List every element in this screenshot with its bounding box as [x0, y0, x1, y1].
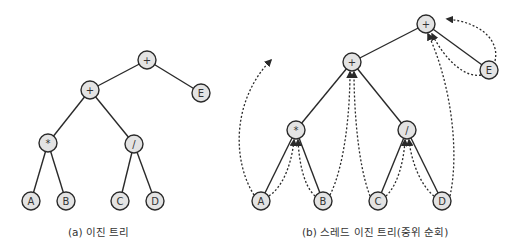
svg-text:B: B: [63, 196, 70, 207]
svg-text:C: C: [375, 196, 382, 207]
thread-link-E-to-root: [432, 34, 481, 75]
svg-text:D: D: [151, 196, 159, 207]
tree-node-A: A: [22, 192, 40, 210]
thread-link-B-to-mul: [298, 140, 315, 196]
tree-node-A: A: [252, 192, 270, 210]
thread-link-A-to-mul: [269, 140, 294, 196]
thread-link-E-to-null-right: [447, 19, 496, 61]
tree-edge: [296, 62, 352, 130]
tree-node-D: D: [146, 192, 164, 210]
tree-edge: [352, 24, 426, 62]
binary-tree: ++E*/ABCD: [22, 51, 210, 210]
thread-link-C-to-plus2: [354, 72, 370, 196]
tree-node-root: +: [417, 15, 435, 33]
svg-text:+: +: [143, 55, 151, 66]
tree-node-plus2: +: [81, 81, 99, 99]
tree-edge: [426, 24, 489, 70]
tree-node-mul: *: [287, 121, 305, 139]
thread-link-D-to-div: [409, 140, 434, 196]
tree-node-E: E: [480, 61, 498, 79]
tree-edge: [261, 130, 296, 201]
tree-node-root: +: [138, 51, 156, 69]
svg-text:E: E: [198, 88, 204, 99]
svg-text:+: +: [422, 19, 430, 30]
svg-text:A: A: [258, 196, 265, 207]
tree-node-mul: *: [39, 134, 57, 152]
svg-text:+: +: [348, 57, 356, 68]
tree-node-E: E: [192, 84, 210, 102]
threaded-binary-tree-diagram: ++E*/ABCD ++E*/ABCD: [0, 0, 518, 245]
thread-link-B-to-plus2: [330, 72, 350, 195]
svg-text:C: C: [117, 196, 124, 207]
caption-binary-tree: (a) 이진 트리: [68, 224, 129, 239]
tree-node-C: C: [369, 192, 387, 210]
tree-edge: [378, 130, 407, 201]
tree-edge: [296, 130, 323, 201]
tree-node-B: B: [314, 192, 332, 210]
threaded-binary-tree: ++E*/ABCD: [239, 15, 498, 210]
tree-node-div: /: [398, 121, 416, 139]
thread-link-D-to-root: [428, 34, 454, 196]
tree-node-D: D: [433, 192, 451, 210]
thread-link-A-to-null-left: [239, 60, 271, 195]
tree-edge: [90, 90, 134, 144]
tree-edge: [48, 90, 90, 143]
svg-text:*: *: [294, 125, 299, 136]
svg-text:+: +: [86, 85, 94, 96]
caption-threaded-binary-tree: (b) 스레드 이진 트리(중위 순회): [302, 224, 448, 239]
tree-node-plus2: +: [343, 53, 361, 71]
tree-node-div: /: [125, 135, 143, 153]
tree-edge: [407, 130, 442, 201]
svg-text:A: A: [28, 196, 35, 207]
svg-text:B: B: [320, 196, 327, 207]
thread-link-C-to-div: [386, 140, 405, 196]
svg-text:E: E: [486, 65, 492, 76]
tree-node-B: B: [57, 192, 75, 210]
svg-text:*: *: [46, 138, 51, 149]
tree-node-C: C: [111, 192, 129, 210]
svg-text:D: D: [438, 196, 446, 207]
tree-edge: [352, 62, 407, 130]
